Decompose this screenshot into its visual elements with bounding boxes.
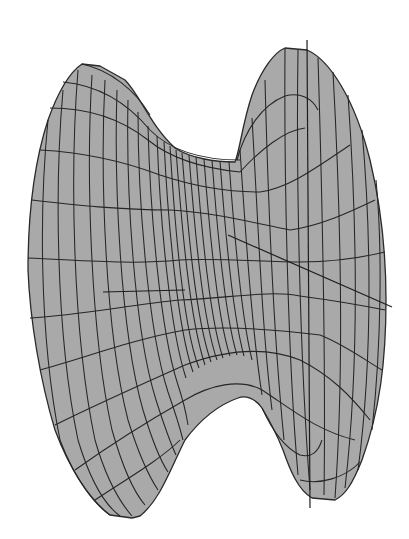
wireframe-surface-figure <box>0 0 409 539</box>
surface-silhouette <box>28 48 386 518</box>
